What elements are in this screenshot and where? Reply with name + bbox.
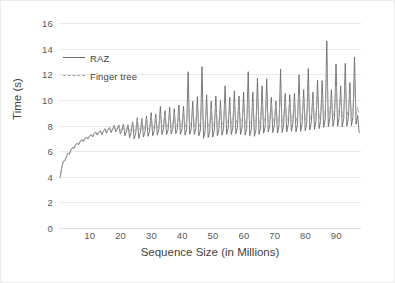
legend-entry-finger-tree[interactable]: Finger tree [63, 67, 173, 85]
x-axis-tick-labels: 102030405060708090 [59, 230, 361, 244]
gridline-y-0 [59, 228, 361, 229]
y-tick-label-12: 12 [42, 69, 53, 80]
y-tick-label-0: 0 [48, 223, 53, 234]
legend-entry-raz[interactable]: RAZ [63, 49, 173, 67]
y-tick-label-14: 14 [42, 43, 53, 54]
x-tick-label-80: 80 [300, 230, 311, 241]
y-tick-label-2: 2 [48, 197, 53, 208]
y-tick-label-16: 16 [42, 18, 53, 29]
x-tick-label-60: 60 [238, 230, 249, 241]
chart-legend: RAZFinger tree [63, 49, 173, 85]
x-tick-label-70: 70 [269, 230, 280, 241]
y-axis-tick-labels: 0246810121416 [27, 23, 53, 228]
x-tick-label-20: 20 [115, 230, 126, 241]
x-tick-label-40: 40 [177, 230, 188, 241]
x-axis-title: Sequence Size (in Millions) [59, 246, 361, 258]
legend-swatch-dashed-line-icon [63, 72, 85, 80]
x-tick-label-90: 90 [331, 230, 342, 241]
x-tick-label-10: 10 [84, 230, 95, 241]
y-tick-label-8: 8 [48, 120, 53, 131]
y-tick-label-10: 10 [42, 94, 53, 105]
legend-label: Finger tree [90, 71, 137, 82]
x-tick-label-50: 50 [208, 230, 219, 241]
y-axis-title: Time (s) [11, 54, 23, 144]
x-tick-label-30: 30 [146, 230, 157, 241]
chart-figure: Time (s) 0246810121416 10203040506070809… [0, 0, 395, 283]
y-tick-label-6: 6 [48, 146, 53, 157]
legend-label: RAZ [90, 53, 109, 64]
legend-swatch-solid-line-icon [63, 54, 85, 62]
y-tick-label-4: 4 [48, 171, 53, 182]
